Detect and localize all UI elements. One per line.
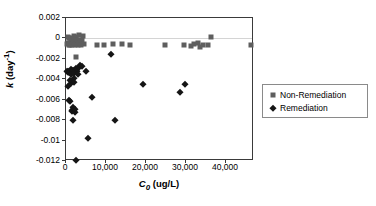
data-point-remediation <box>177 88 183 94</box>
x-axis-tick-mark <box>145 160 146 163</box>
data-point-non-remediation <box>182 42 187 47</box>
data-point-remediation <box>88 94 94 100</box>
data-point-remediation <box>83 67 89 73</box>
x-axis-tick-label: 30,000 <box>172 163 198 172</box>
plot-area <box>65 17 253 160</box>
data-point-remediation <box>70 117 76 123</box>
data-point-remediation <box>112 117 118 123</box>
legend-label-non-remediation: Non-Remediation <box>280 91 346 100</box>
x-axis-tick-label: 0 <box>63 163 68 172</box>
y-axis-title: k (day-1) <box>2 50 15 88</box>
data-point-non-remediation <box>74 54 79 59</box>
y-axis-tick-label: 0 <box>55 33 60 42</box>
data-point-non-remediation <box>163 42 168 47</box>
scatter-chart-figure: k (day-1) 0.0020-0.002-0.004-0.006-0.008… <box>0 0 376 206</box>
data-point-non-remediation <box>206 43 211 48</box>
data-point-remediation <box>108 51 114 57</box>
data-point-non-remediation <box>208 34 213 39</box>
data-point-remediation <box>140 81 146 87</box>
data-point-non-remediation <box>120 42 125 47</box>
x-axis-tick-label: 10,000 <box>92 163 118 172</box>
x-axis-tick-label: 20,000 <box>132 163 158 172</box>
data-point-non-remediation <box>249 43 254 48</box>
y-axis-tick-label: -0.008 <box>36 115 60 124</box>
x-axis-tick-mark <box>65 160 66 163</box>
x-axis-tick-label: 40,000 <box>212 163 238 172</box>
y-axis-tick-label: -0.004 <box>36 74 60 83</box>
y-axis-tick-label: -0.006 <box>36 94 60 103</box>
data-point-remediation <box>73 157 79 163</box>
chart-legend: Non-Remediation Remediation <box>262 84 368 118</box>
y-axis-tick-label: -0.012 <box>36 156 60 165</box>
y-axis-tick-label: -0.01 <box>41 135 60 144</box>
data-point-remediation <box>75 70 81 76</box>
data-point-non-remediation <box>128 42 133 47</box>
data-point-remediation <box>85 135 91 141</box>
legend-label-remediation: Remediation <box>280 104 328 113</box>
x-axis-tick-mark <box>225 160 226 163</box>
legend-item-non-remediation: Non-Remediation <box>268 89 346 101</box>
data-point-remediation <box>182 81 188 87</box>
x-axis-tick-mark <box>185 160 186 163</box>
legend-item-remediation: Remediation <box>268 102 328 114</box>
x-axis-tick-mark <box>105 160 106 163</box>
y-axis-tick-label: 0.002 <box>39 13 60 22</box>
data-point-non-remediation <box>102 42 107 47</box>
zero-reference-line <box>66 38 252 39</box>
data-point-non-remediation <box>81 34 86 39</box>
data-point-non-remediation <box>95 42 100 47</box>
data-point-non-remediation <box>111 42 116 47</box>
y-axis-tick-label: -0.002 <box>36 54 60 63</box>
square-marker-icon <box>268 90 278 100</box>
data-point-non-remediation <box>82 41 87 46</box>
diamond-marker-icon <box>268 103 278 113</box>
x-axis-title: C0 (ug/L) <box>65 178 253 192</box>
